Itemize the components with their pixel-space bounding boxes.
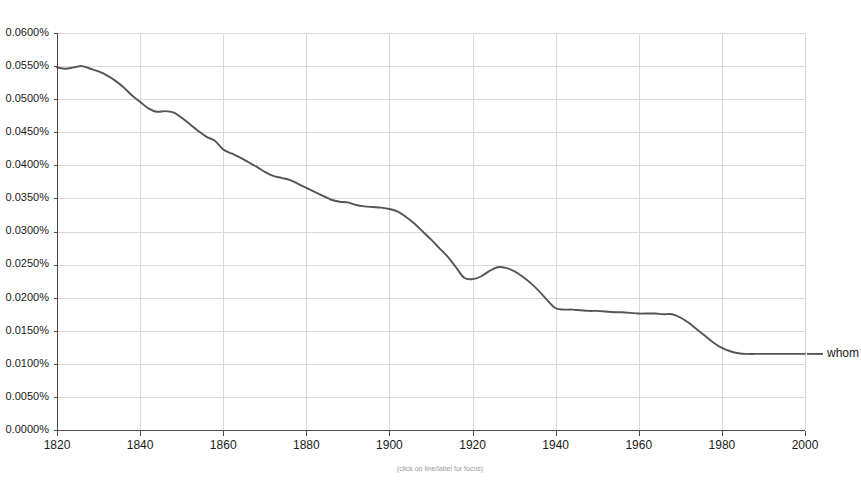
legend-label-whom[interactable]: whom (826, 346, 859, 360)
x-axis-tick-label: 1820 (44, 438, 71, 452)
y-axis-tick-label: 0.0000% (6, 423, 50, 435)
x-axis-tick-label: 1940 (542, 438, 569, 452)
x-axis-tick-label: 1900 (376, 438, 403, 452)
y-axis-tick-label: 0.0350% (6, 191, 50, 203)
y-axis-tick-label: 0.0250% (6, 257, 50, 269)
x-axis-tick-label: 1880 (293, 438, 320, 452)
y-axis-tick-label: 0.0400% (6, 158, 50, 170)
x-axis-tick-label: 1920 (459, 438, 486, 452)
x-axis-tick-label: 1860 (210, 438, 237, 452)
chart-background (0, 0, 861, 493)
x-axis-tick-label: 1980 (709, 438, 736, 452)
x-axis-tick-label: 1840 (127, 438, 154, 452)
y-axis-tick-label: 0.0550% (6, 59, 50, 71)
y-axis-tick-label: 0.0100% (6, 357, 50, 369)
y-axis-tick-label: 0.0150% (6, 324, 50, 336)
y-axis-tick-label: 0.0200% (6, 291, 50, 303)
ngram-chart-container: 0.0600%0.0550%0.0500%0.0450%0.0400%0.035… (0, 0, 861, 493)
y-axis-tick-label: 0.0450% (6, 125, 50, 137)
x-axis-tick-label: 1960 (625, 438, 652, 452)
ngram-chart-plot[interactable]: 0.0600%0.0550%0.0500%0.0450%0.0400%0.035… (0, 0, 861, 493)
y-axis-tick-label: 0.0050% (6, 390, 50, 402)
y-axis-tick-label: 0.0300% (6, 224, 50, 236)
x-axis-tick-label: 2000 (792, 438, 819, 452)
y-axis-tick-label: 0.0500% (6, 92, 50, 104)
chart-caption: (click on line/label for focus) (397, 465, 483, 473)
y-axis-tick-label: 0.0600% (6, 26, 50, 38)
